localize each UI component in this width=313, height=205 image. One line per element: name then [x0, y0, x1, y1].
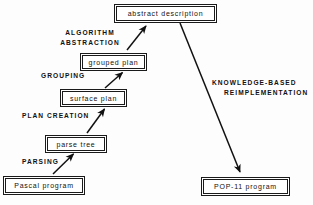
- node-abstract-description[interactable]: abstract description: [116, 6, 215, 21]
- node-parse-tree[interactable]: parse tree: [47, 137, 105, 151]
- figure-diagram: abstract description grouped plan surfac…: [0, 0, 313, 205]
- phase-label-plan-creation: PLAN CREATION: [22, 111, 89, 121]
- phase-label-grouping: GROUPING: [41, 71, 85, 81]
- node-parse-tree-label: parse tree: [55, 141, 96, 148]
- node-grouped-plan[interactable]: grouped plan: [82, 55, 145, 69]
- phase-algorithm-abstraction-line2: ABSTRACTION: [48, 38, 132, 48]
- node-pop11-program[interactable]: POP-11 program: [203, 179, 288, 194]
- arrow-grouping: [105, 73, 123, 89]
- node-pascal-program-label: Pascal program: [13, 182, 75, 189]
- phase-knowledge-based-line1: KNOWLEDGE-BASED: [212, 79, 297, 86]
- node-pop11-program-label: POP-11 program: [213, 183, 278, 190]
- phase-grouping-text: GROUPING: [41, 72, 85, 79]
- phase-label-knowledge-based-reimplementation: KNOWLEDGE-BASED REIMPLEMENTATION: [212, 78, 308, 98]
- node-surface-plan-label: surface plan: [69, 95, 118, 102]
- node-grouped-plan-label: grouped plan: [88, 59, 140, 66]
- phase-algorithm-abstraction-line1: ALGORITHM: [65, 29, 114, 36]
- arrow-layer: [0, 0, 313, 205]
- phase-label-algorithm-abstraction: ALGORITHM ABSTRACTION: [48, 28, 132, 48]
- phase-parsing-text: PARSING: [22, 158, 59, 165]
- arrow-plan-creation: [87, 109, 105, 133]
- node-surface-plan[interactable]: surface plan: [62, 91, 125, 105]
- phase-knowledge-based-line2: REIMPLEMENTATION: [212, 88, 308, 98]
- phase-label-parsing: PARSING: [22, 157, 59, 167]
- node-pascal-program[interactable]: Pascal program: [5, 178, 83, 193]
- phase-plan-creation-text: PLAN CREATION: [22, 112, 89, 119]
- node-abstract-description-label: abstract description: [127, 10, 205, 17]
